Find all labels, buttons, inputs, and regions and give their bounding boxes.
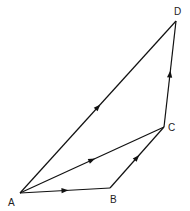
arrow-icon — [167, 71, 172, 78]
vector-diagram: ABCD — [0, 0, 190, 211]
arrowheads — [61, 71, 172, 194]
vertex-label-A: A — [8, 197, 15, 208]
arrow-icon — [88, 159, 95, 164]
vertex-label-C: C — [168, 122, 175, 133]
arrow-icon — [61, 188, 68, 193]
vertex-label-B: B — [110, 194, 117, 205]
vertex-label-D: D — [174, 6, 181, 17]
